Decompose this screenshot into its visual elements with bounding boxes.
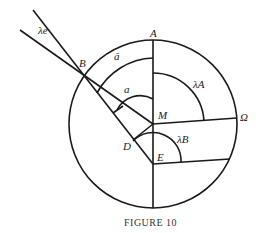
label-a-bar: ā [114,50,120,62]
label-b: B [79,57,86,69]
label-a-point: A [149,27,157,39]
figure-caption: FIGURE 10 [124,217,177,228]
label-lambda-e: λe [37,24,48,36]
b-e-line [33,10,153,164]
label-omega: Ω [240,111,248,123]
b-m-line [20,30,153,124]
label-lambda-b: λB [176,133,189,145]
label-e: E [156,151,164,163]
e-horizontal-line [153,159,230,164]
label-d: D [122,140,131,152]
figure-diagram: λe B ā A a λA M Ω D λB E FIGURE 10 [0,0,256,233]
label-lambda-a: λA [192,78,205,90]
label-m: M [157,109,168,121]
label-a: a [124,83,130,95]
